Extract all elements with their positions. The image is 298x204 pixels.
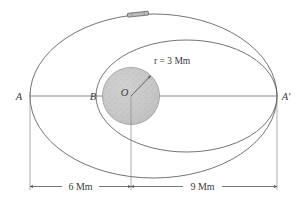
dimension-9mm: 9 Mm [131,181,277,192]
dimension-9mm-label: 9 Mm [190,181,214,192]
label-point-o: O [121,87,129,98]
dimension-6mm-label: 6 Mm [68,181,92,192]
orbit-diagram-canvas: 6 Mm 9 Mm A B O A′ r = 3 Mm [0,0,298,204]
dimension-6mm: 6 Mm [30,181,131,192]
label-point-a: A [15,91,23,102]
orbit-diagram-figure: 6 Mm 9 Mm A B O A′ r = 3 Mm [0,0,298,204]
label-point-b: B [90,91,97,102]
label-planet-radius: r = 3 Mm [154,56,191,66]
label-point-a-prime: A′ [281,91,291,102]
satellite-marker [127,11,148,17]
